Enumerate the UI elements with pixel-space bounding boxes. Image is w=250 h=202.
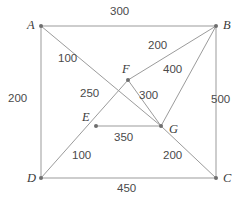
node-label-d: D — [27, 172, 36, 185]
edge-weight-g-b: 400 — [163, 64, 182, 76]
edge-weight-a-b: 300 — [110, 6, 129, 18]
edge-weight-b-c: 500 — [211, 94, 230, 106]
edge-weight-g-c: 200 — [163, 150, 182, 162]
edge-weight-f-g: 300 — [139, 90, 158, 102]
edge-weight-e-g: 350 — [114, 132, 133, 144]
edge-weight-f-b: 200 — [148, 40, 167, 52]
segment-g-to-b-path — [161, 26, 216, 126]
edge-weight-f-e: 250 — [80, 88, 99, 100]
edge-weight-a-d: 200 — [8, 93, 27, 105]
edge-weight-d-c: 450 — [117, 183, 136, 195]
node-dot-f — [126, 78, 130, 82]
node-label-a: A — [27, 19, 35, 32]
edge-weight-a-f: 100 — [58, 53, 77, 65]
node-dot-a — [39, 24, 43, 28]
node-dot-d — [39, 176, 43, 180]
diagonal-d-to-f-to-b-path — [41, 26, 216, 178]
node-label-g: G — [169, 123, 178, 136]
node-label-c: C — [223, 172, 231, 185]
node-dot-c — [214, 176, 218, 180]
node-label-e: E — [82, 111, 90, 124]
weighted-graph-diagram: A B C D E F G 300 200 450 500 100 200 25… — [0, 0, 250, 202]
square-outline-path — [41, 26, 216, 178]
node-label-b: B — [223, 19, 231, 32]
node-dot-b — [214, 24, 218, 28]
edge-weight-d-e: 100 — [72, 150, 91, 162]
node-label-f: F — [122, 63, 130, 76]
node-dot-g — [159, 124, 163, 128]
node-dots-group — [39, 24, 218, 180]
edge-lines-group — [41, 26, 216, 178]
node-dot-e — [94, 124, 98, 128]
